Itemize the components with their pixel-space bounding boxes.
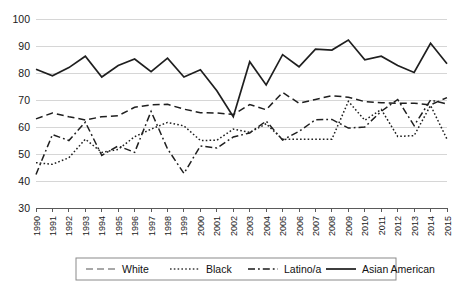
x-axis-tick-label: 1994 <box>97 216 107 236</box>
x-axis-tick-label: 1992 <box>64 216 74 236</box>
x-axis-tick-label: 1996 <box>130 216 140 236</box>
x-axis-tick-label: 2009 <box>344 216 354 236</box>
x-axis-tick-label: 2002 <box>229 216 239 236</box>
x-axis-tick-label: 2013 <box>410 216 420 236</box>
x-axis-tick-label: 1999 <box>179 216 189 236</box>
y-axis-tick-label: 90 <box>18 40 30 52</box>
x-axis-tick-label: 2011 <box>377 216 387 235</box>
x-axis-tick-label: 2012 <box>393 216 403 236</box>
y-axis-tick-label: 100 <box>12 13 30 25</box>
y-axis-tick-label: 80 <box>18 67 30 79</box>
x-axis-tick-label: 2014 <box>426 216 436 236</box>
x-axis-tick-label: 1990 <box>32 216 42 236</box>
y-axis-tick-label: 60 <box>18 121 30 133</box>
x-axis-tick-label: 1997 <box>147 216 157 236</box>
x-axis-tick-label: 1995 <box>114 216 124 236</box>
x-axis-tick-label: 1993 <box>81 216 91 236</box>
legend-label: White <box>122 263 149 275</box>
x-axis-tick-label: 2008 <box>327 216 337 236</box>
x-axis-tick-label: 2004 <box>262 216 272 236</box>
x-axis-tick-label: 2001 <box>212 216 222 236</box>
x-axis-tick-label: 1991 <box>48 216 58 236</box>
x-axis-tick-label: 2015 <box>443 216 453 236</box>
x-axis-tick-label: 2000 <box>196 216 206 236</box>
y-axis-tick-label: 70 <box>18 94 30 106</box>
legend-label: Latino/a <box>284 263 322 275</box>
x-axis-tick-label: 2006 <box>295 216 305 236</box>
line-chart: 3040506070809010019901991199219931994199… <box>0 0 463 291</box>
series-line-latino-a <box>36 99 447 174</box>
x-axis-tick-label: 2003 <box>245 216 255 236</box>
series-line-black <box>36 101 447 164</box>
legend-label: Asian American <box>362 263 435 275</box>
x-axis-tick-label: 2007 <box>311 216 321 236</box>
x-axis-tick-label: 1998 <box>163 216 173 236</box>
y-axis-tick-label: 50 <box>18 148 30 160</box>
legend-label: Black <box>206 263 232 275</box>
x-axis-tick-label: 2005 <box>278 216 288 236</box>
chart-svg: 3040506070809010019901991199219931994199… <box>0 0 463 291</box>
x-axis-tick-label: 2010 <box>360 216 370 236</box>
y-axis-tick-label: 30 <box>18 202 30 214</box>
y-axis-tick-label: 40 <box>18 175 30 187</box>
chart-container: 3040506070809010019901991199219931994199… <box>0 0 463 291</box>
series-line-asian-american <box>36 40 447 117</box>
